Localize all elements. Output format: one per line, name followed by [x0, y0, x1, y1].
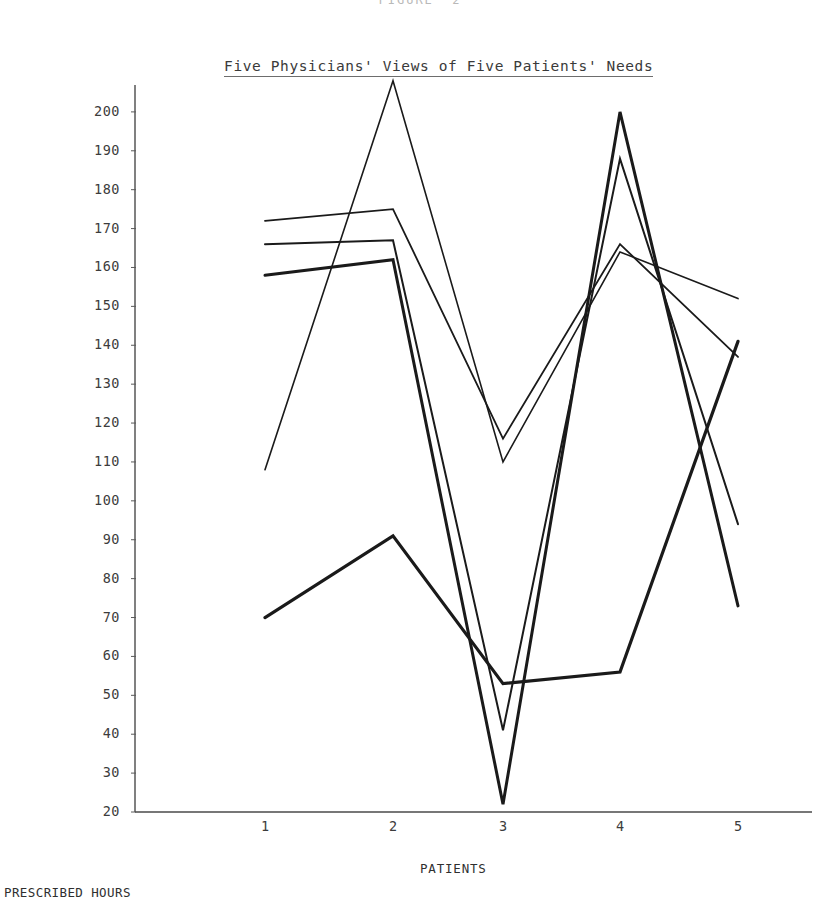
- series-line-3: [265, 159, 738, 731]
- y-tick-label-70: 70: [72, 609, 120, 625]
- y-tick-label-190: 190: [72, 142, 120, 158]
- y-tick-label-170: 170: [72, 220, 120, 236]
- chart-svg: [0, 0, 840, 910]
- series-line-2: [265, 209, 738, 438]
- x-tick-label-5: 5: [718, 818, 758, 834]
- series-line-1: [265, 81, 738, 470]
- line-chart-plot: [0, 0, 840, 910]
- x-axis-caption: PATIENTS: [420, 861, 487, 876]
- y-tick-label-160: 160: [72, 258, 120, 274]
- y-tick-label-50: 50: [72, 686, 120, 702]
- x-tick-label-2: 2: [373, 818, 413, 834]
- x-tick-label-3: 3: [483, 818, 523, 834]
- y-tick-label-180: 180: [72, 181, 120, 197]
- figure-root: FIGURE 2 Five Physicians' Views of Five …: [0, 0, 840, 910]
- y-tick-label-110: 110: [72, 453, 120, 469]
- y-tick-label-120: 120: [72, 414, 120, 430]
- y-axis-caption: PRESCRIBED HOURS OF WEEKLY HOME CARE: [4, 840, 131, 910]
- series-line-5: [265, 341, 738, 683]
- y-tick-label-40: 40: [72, 725, 120, 741]
- x-tick-label-4: 4: [600, 818, 640, 834]
- y-tick-label-130: 130: [72, 375, 120, 391]
- y-tick-label-200: 200: [72, 103, 120, 119]
- y-tick-label-60: 60: [72, 647, 120, 663]
- y-tick-label-90: 90: [72, 531, 120, 547]
- y-tick-label-20: 20: [72, 803, 120, 819]
- y-tick-label-140: 140: [72, 336, 120, 352]
- y-tick-label-100: 100: [72, 492, 120, 508]
- y-tick-label-30: 30: [72, 764, 120, 780]
- y-axis-caption-line-1: PRESCRIBED HOURS: [4, 882, 131, 903]
- x-tick-label-1: 1: [245, 818, 285, 834]
- y-tick-label-150: 150: [72, 297, 120, 313]
- y-tick-label-80: 80: [72, 570, 120, 586]
